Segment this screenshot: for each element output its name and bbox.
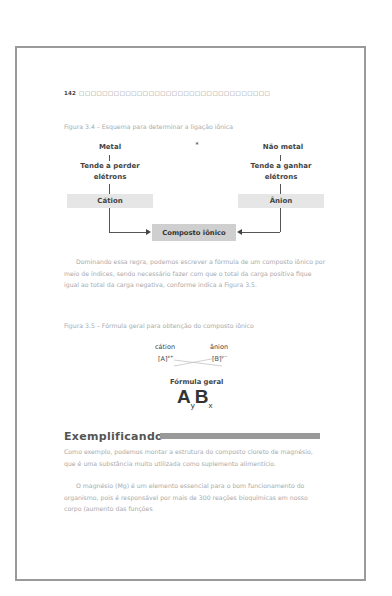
general-formula: AyBx <box>177 386 212 410</box>
paragraph-text: Dominando essa regra, podemos escrever a… <box>64 258 325 288</box>
figure-3-4-caption: Figura 3.4 – Esquema para determinar a l… <box>64 123 233 130</box>
connector-line <box>109 184 110 194</box>
cation-bracket: [A] <box>158 355 168 363</box>
cation-word: cátion <box>155 343 175 351</box>
page-number: 142 <box>64 90 76 96</box>
connector-line <box>242 232 280 233</box>
paragraph-example-intro: Como exemplo, podemos montar a estrutura… <box>64 446 326 469</box>
paragraph-magnesium: O magnésio (Mg) é um elemento essencial … <box>64 480 326 515</box>
connector-line <box>280 208 281 232</box>
lose-electrons-line1: Tende a perder <box>70 161 150 172</box>
metal-label: Metal <box>80 142 140 153</box>
general-formula-label: Fórmula geral <box>170 378 223 386</box>
running-header: 142□□□□□□□□□□□□□□□□□□□□□□□□□□□□□□□□□ <box>64 90 270 96</box>
arrow-right-icon <box>146 229 151 235</box>
formula-b: B <box>195 386 209 407</box>
asterisk-mark: * <box>192 140 202 151</box>
section-heading: Exemplificando <box>64 430 163 443</box>
connector-line <box>109 208 110 232</box>
figure-3-5-caption: Figura 3.5 – Fórmula geral para obtenção… <box>64 322 254 329</box>
arrow-left-icon <box>237 229 242 235</box>
connector-line <box>280 184 281 194</box>
paragraph-text: O magnésio (Mg) é um elemento essencial … <box>64 482 308 512</box>
cross-charge-arrows-icon <box>170 354 230 370</box>
formula-sub-x: x <box>208 401 212 410</box>
lose-electrons-line2: elétrons <box>70 172 150 183</box>
anion-word: ânion <box>210 343 228 351</box>
section-heading-bar <box>160 433 320 439</box>
connector-line <box>109 232 147 233</box>
gain-electrons-line2: elétrons <box>240 172 322 183</box>
anion-label: Ânion <box>238 196 324 207</box>
ionic-compound-box: Composto iônico <box>152 224 236 241</box>
gain-electrons-line1: Tende a ganhar <box>240 161 322 172</box>
header-title-glyphs: □□□□□□□□□□□□□□□□□□□□□□□□□□□□□□□□□ <box>79 90 270 96</box>
formula-a: A <box>177 386 191 407</box>
nonmetal-label: Não metal <box>248 142 318 153</box>
paragraph-formula-rule: Dominando essa regra, podemos escrever a… <box>64 256 326 291</box>
cation-label: Cátion <box>67 196 153 207</box>
